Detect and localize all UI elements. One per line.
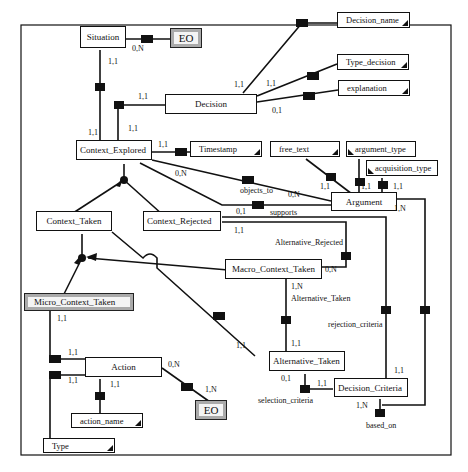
entity-decision[interactable]: Decision — [165, 94, 257, 114]
card: 1,1 — [394, 366, 404, 375]
attr-decision-name[interactable]: Decision_name — [337, 12, 410, 28]
card: 0,N — [288, 190, 300, 199]
attr-type-decision[interactable]: Type_decision — [337, 54, 409, 70]
rel-supports: supports — [270, 208, 297, 217]
rel-alternative-rejected: Alternative_Rejected — [275, 238, 343, 247]
card: 0,1 — [281, 374, 291, 383]
card: 1,1 — [320, 182, 330, 191]
entity-action[interactable]: Action — [85, 357, 162, 377]
card: 0,N — [168, 360, 180, 369]
card: 1,N — [394, 204, 406, 213]
attr-acquisition-type[interactable]: acquisition_type — [366, 160, 438, 176]
entity-micro-context-taken[interactable]: Micro_Context_Taken — [24, 293, 134, 311]
entity-macro-context-taken[interactable]: Macro_Context_Taken — [225, 259, 322, 279]
card: 1,1 — [57, 314, 67, 323]
card: 1,N — [356, 401, 368, 410]
rel-based-on: based_on — [366, 421, 396, 430]
card: 1,1 — [317, 379, 327, 388]
attr-free-text[interactable]: free_text — [270, 141, 340, 157]
card: 0,N — [325, 265, 337, 274]
entity-eo-bottom[interactable]: EO — [195, 400, 227, 420]
rel-alternative-taken: Alternative_Taken — [291, 294, 350, 303]
entity-decision-criteria[interactable]: Decision_Criteria — [334, 378, 408, 397]
card: 1,1 — [234, 80, 244, 89]
rel-selection-criteria: selection_criteria — [258, 396, 313, 405]
attr-explanation[interactable]: explanation — [338, 80, 410, 96]
card: 1,1 — [393, 182, 403, 191]
card: 0,1 — [236, 207, 246, 216]
card: 1,1 — [108, 57, 118, 66]
entity-argument[interactable]: Argument — [331, 192, 397, 211]
entity-context-rejected[interactable]: Context_Rejected — [143, 211, 221, 231]
eo-top-label: EO — [174, 32, 198, 44]
micro-context-taken-label: Micro_Context_Taken — [28, 297, 130, 307]
card: 1,1 — [68, 376, 78, 385]
attr-action-name[interactable]: action_name — [71, 413, 143, 428]
attr-argument-type[interactable]: argument_type — [346, 141, 416, 157]
card: 1,1 — [128, 124, 138, 133]
rel-objects-to: objects_to — [240, 186, 273, 195]
entity-eo-top[interactable]: EO — [170, 28, 202, 48]
eo-bottom-label: EO — [199, 404, 223, 416]
card: 1,1 — [138, 92, 148, 101]
entity-alternative-taken[interactable]: Alternative_Taken — [269, 351, 345, 371]
attr-timestamp[interactable]: Timestamp — [190, 141, 262, 157]
card: 0,1 — [272, 106, 282, 115]
attr-type[interactable]: Type — [43, 438, 115, 453]
entity-situation[interactable]: Situation — [80, 26, 126, 48]
card: 1,1 — [158, 140, 168, 149]
card: 1,N — [205, 385, 217, 394]
card: 1,1 — [68, 348, 78, 357]
entity-context-explored[interactable]: Context_Explored — [76, 140, 152, 160]
card: 1,1 — [361, 182, 371, 191]
card: 1,1 — [291, 339, 301, 348]
card: 1,N — [291, 282, 303, 291]
card: 0,N — [175, 169, 187, 178]
card: 1,1 — [236, 341, 246, 350]
card: 0,N — [132, 44, 144, 53]
card: 1,1 — [266, 79, 276, 88]
card: 1,1 — [234, 226, 244, 235]
card: 1,1 — [88, 128, 98, 137]
card: 1,1 — [110, 380, 120, 389]
er-diagram-lines — [0, 0, 468, 472]
entity-context-taken[interactable]: Context_Taken — [36, 211, 112, 231]
rel-rejection-criteria: rejection_criteria — [328, 320, 383, 329]
